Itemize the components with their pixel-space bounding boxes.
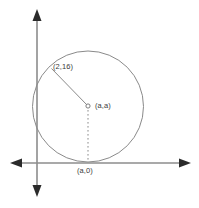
label-center-point: (a,a) xyxy=(95,101,111,110)
label-point-on-circle: (2,16) xyxy=(53,62,73,71)
x-axis-arrow-left-icon xyxy=(10,159,22,168)
y-axis-arrow-down-icon xyxy=(33,185,42,197)
center-point-marker xyxy=(86,104,90,108)
label-tangent-point: (a,0) xyxy=(77,166,93,175)
geometry-figure: (2,16) (a,a) (a,0) xyxy=(0,0,199,208)
y-axis-arrow-up-icon xyxy=(33,9,42,21)
x-axis-arrow-right-icon xyxy=(179,159,191,168)
radius-segment xyxy=(52,69,88,106)
